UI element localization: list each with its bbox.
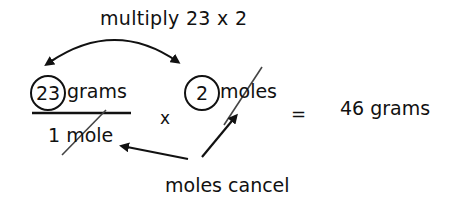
cancel-arrow-right [202,116,236,157]
unit-conversion-diagram: multiply 23 x 2 23 grams 1 mole x 2 mole… [0,0,454,205]
multiply-arc-arrow [50,40,178,62]
multiply-operator: x [160,110,170,127]
numerator-unit: grams [67,82,127,101]
circled-value: 2 [196,82,208,104]
equals-sign: = [291,105,306,123]
denominator-text: 1 mole [48,126,113,145]
circled-value: 23 [36,82,60,104]
result-value: 46 grams [340,99,430,118]
diagram-title: multiply 23 x 2 [100,9,247,28]
circled-number-23: 23 [30,75,66,111]
cancel-annotation: moles cancel [165,176,290,195]
cancel-arrow-left [122,146,188,159]
second-factor-unit: moles [220,82,277,101]
circled-number-2: 2 [184,75,220,111]
